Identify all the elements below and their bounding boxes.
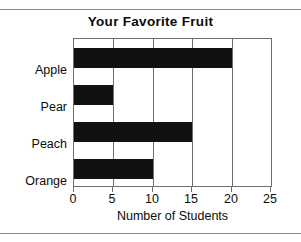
bar [74, 85, 113, 105]
bar [74, 159, 153, 179]
chart-title: Your Favorite Fruit [0, 14, 301, 29]
gridline [232, 39, 233, 186]
x-tick-label: 5 [97, 192, 127, 206]
category-label: Orange [0, 174, 67, 188]
category-label: Pear [0, 100, 67, 114]
page-rule-top [0, 9, 301, 10]
bar [74, 122, 192, 142]
x-tick-label: 15 [176, 192, 206, 206]
category-label: Apple [0, 63, 67, 77]
plot-area [73, 38, 272, 187]
x-tick-label: 20 [216, 192, 246, 206]
x-axis-label: Number of Students [73, 209, 272, 223]
bar-chart-figure: Your Favorite Fruit Number of Students 0… [0, 0, 301, 242]
x-tick-label: 25 [255, 192, 285, 206]
category-label: Peach [0, 137, 67, 151]
bar [74, 48, 232, 68]
page-rule-bottom [0, 233, 301, 234]
x-tick-label: 10 [137, 192, 167, 206]
x-tick-label: 0 [58, 192, 88, 206]
